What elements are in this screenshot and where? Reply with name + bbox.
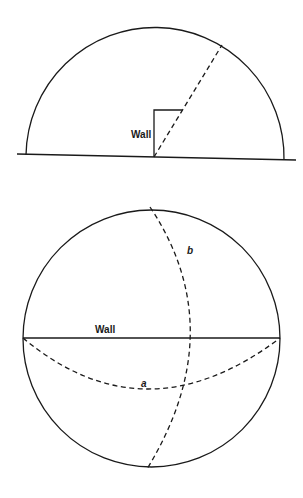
diagram-canvas: Wall Wall a b xyxy=(0,0,303,498)
sphere-figure: Wall a b xyxy=(23,207,280,469)
sightline-dashed xyxy=(154,45,222,157)
arc-b-label: b xyxy=(187,245,193,256)
bottom-wall-label: Wall xyxy=(95,324,115,335)
hemisphere-arc xyxy=(26,27,284,160)
arc-a-dashed xyxy=(23,338,280,389)
arc-a-label: a xyxy=(141,378,147,389)
hemisphere-figure: Wall xyxy=(17,27,296,160)
ground-line xyxy=(17,154,296,160)
top-wall-label: Wall xyxy=(131,129,151,140)
